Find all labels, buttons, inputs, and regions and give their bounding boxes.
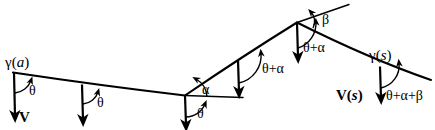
curve-segment-flat [13, 73, 185, 96]
label-theta-1: θ [29, 84, 36, 98]
label-vector-v: V [19, 110, 30, 125]
label-gamma-a: γ(a) [5, 55, 29, 70]
vector-2-group [82, 85, 98, 121]
vector-arrow-1 [14, 73, 15, 117]
vector-arrow-6 [380, 67, 381, 99]
label-alpha: α [202, 83, 209, 97]
label-theta-plus-alpha-2: θ+α [303, 41, 325, 55]
vector-arrow-2 [82, 85, 83, 121]
vector-arrow-3 [185, 96, 186, 126]
label-theta-plus-alpha-plus-beta: θ+α+β [386, 89, 423, 103]
label-theta-plus-alpha-1: θ+α [262, 62, 284, 76]
angle-arc-2 [83, 92, 98, 104]
angle-arc-beta [311, 12, 315, 28]
geometry-diagram: γ(a) θ V θ α θ θ+α θ+α β γ(s) V(s) θ+α+β [0, 0, 435, 130]
label-beta: β [322, 13, 329, 27]
label-vector-v-s: V(s) [336, 88, 363, 103]
label-gamma-s: γ(s) [369, 48, 391, 63]
label-theta-2: θ [97, 96, 104, 110]
vector-arrow-5 [297, 23, 298, 58]
diagram-canvas [0, 0, 435, 130]
tangent-line-corner [185, 96, 243, 98]
label-theta-3: θ [197, 107, 204, 121]
vector-arrow-4 [238, 60, 239, 92]
